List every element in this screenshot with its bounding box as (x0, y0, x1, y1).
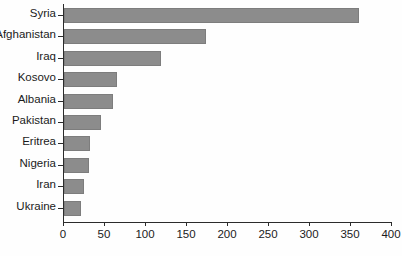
plot-area: SyriaAfghanistanIraqKosovoAlbaniaPakista… (0, 0, 402, 256)
bar-row: Eritrea (0, 136, 402, 151)
y-axis-tick (58, 36, 63, 37)
bar-row: Iran (0, 179, 402, 194)
bar-row: Iraq (0, 51, 402, 66)
y-axis-tick (58, 79, 63, 80)
x-axis-tick (104, 222, 105, 226)
bar-row: Nigeria (0, 158, 402, 173)
bar-row: Albania (0, 94, 402, 109)
x-axis-tick-label: 400 (381, 228, 400, 240)
bar (64, 8, 359, 23)
bar-category-label: Iraq (0, 49, 56, 64)
bar (64, 94, 113, 109)
x-axis-tick-label: 300 (299, 228, 318, 240)
bar-row: Syria (0, 8, 402, 23)
x-axis-tick-label: 350 (340, 228, 359, 240)
bar (64, 72, 117, 87)
bar-category-label: Eritrea (0, 134, 56, 149)
x-axis-tick-label: 50 (98, 228, 111, 240)
x-axis-tick (391, 222, 392, 226)
bar-category-label: Syria (0, 6, 56, 21)
bar-category-label: Ukraine (0, 199, 56, 214)
y-axis-tick (58, 165, 63, 166)
y-axis-tick (58, 122, 63, 123)
x-axis-tick-label: 200 (217, 228, 236, 240)
bar (64, 158, 89, 173)
y-axis-tick (58, 186, 63, 187)
bar-row: Pakistan (0, 115, 402, 130)
y-axis-tick (58, 58, 63, 59)
x-axis-tick (309, 222, 310, 226)
bar (64, 51, 161, 66)
y-axis-tick (58, 143, 63, 144)
y-axis-tick (58, 15, 63, 16)
x-axis-tick (145, 222, 146, 226)
bar-row: Ukraine (0, 201, 402, 216)
x-axis-tick-label: 250 (258, 228, 277, 240)
y-axis-tick (58, 101, 63, 102)
x-axis-tick-label: 0 (60, 228, 66, 240)
bar-category-label: Albania (0, 92, 56, 107)
x-axis-tick (350, 222, 351, 226)
bar-category-label: Afghanistan (0, 27, 56, 42)
x-axis-tick (227, 222, 228, 226)
bar-category-label: Pakistan (0, 113, 56, 128)
x-axis-tick (186, 222, 187, 226)
x-axis-tick (268, 222, 269, 226)
y-axis-tick (58, 208, 63, 209)
bar-category-label: Iran (0, 177, 56, 192)
bar-row: Afghanistan (0, 29, 402, 44)
bar (64, 29, 206, 44)
bar (64, 201, 81, 216)
bar-row: Kosovo (0, 72, 402, 87)
bar-category-label: Kosovo (0, 70, 56, 85)
x-axis-tick-label: 150 (176, 228, 195, 240)
bar-category-label: Nigeria (0, 156, 56, 171)
bar (64, 179, 84, 194)
bar (64, 115, 101, 130)
bar (64, 136, 90, 151)
x-axis-tick (63, 222, 64, 226)
bar-chart: SyriaAfghanistanIraqKosovoAlbaniaPakista… (0, 0, 402, 256)
x-axis-tick-label: 100 (135, 228, 154, 240)
